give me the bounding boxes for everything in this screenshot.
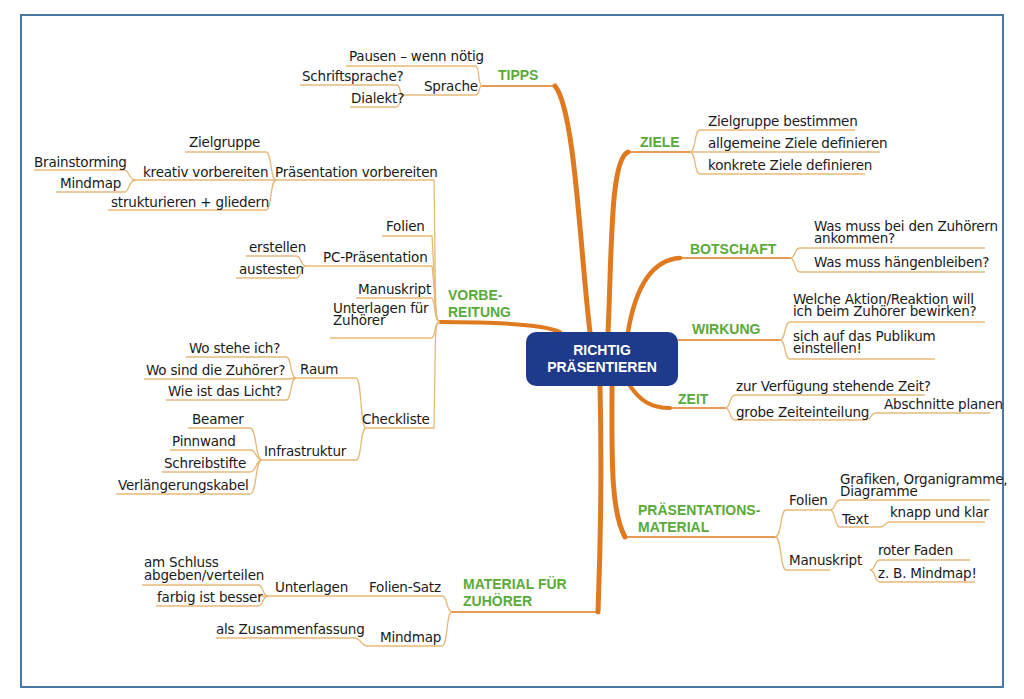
node-erstellen: erstellen xyxy=(249,240,306,254)
node-ziele-2: allgemeine Ziele definieren xyxy=(708,136,887,150)
node-unterlagen: Unterlagen xyxy=(275,580,348,594)
node-folien: Folien xyxy=(386,219,425,233)
node-wo-sind-zuhoerer: Wo sind die Zuhörer? xyxy=(146,363,285,377)
node-zeit-1: zur Verfügung stehende Zeit? xyxy=(736,379,931,393)
node-pinnwand: Pinnwand xyxy=(172,434,236,448)
branch-botschaft: BOTSCHAFT xyxy=(690,242,776,257)
node-farbig: farbig ist besser xyxy=(157,590,263,604)
node-roter-faden: roter Faden xyxy=(878,543,953,557)
node-text: Text xyxy=(842,512,869,526)
node-wirkung-2: sich auf das Publikum einstellen! xyxy=(793,330,936,354)
node-wirkung-1: Welche Aktion/Reaktion will ich beim Zuh… xyxy=(793,293,977,317)
node-verlaengerungskabel: Verlängerungskabel xyxy=(118,478,249,492)
hub-line1: RICHTIG xyxy=(526,342,678,359)
central-topic: RICHTIG PRÄSENTIEREN xyxy=(526,332,678,386)
branch-vorbereitung-line1: VORBE- xyxy=(448,288,502,303)
hub-line2: PRÄSENTIEREN xyxy=(526,359,678,376)
node-schriftsprache: Schriftsprache? xyxy=(302,69,404,83)
node-manuskript-material: Manuskript xyxy=(789,553,862,567)
node-zielgruppe: Zielgruppe xyxy=(189,135,260,149)
branch-material-zuhoerer-line1: MATERIAL FÜR xyxy=(463,577,567,592)
node-am-schluss: am Schluss abgeben/verteilen xyxy=(144,556,264,582)
node-beamer: Beamer xyxy=(192,412,244,426)
node-knapp-klar: knapp und klar xyxy=(890,505,989,519)
node-botschaft-2: Was muss hängenbleiben? xyxy=(814,255,989,269)
branch-praesentationsmaterial-line2: MATERIAL xyxy=(638,520,709,535)
node-praesentation-vorbereiten: Präsentation vorbereiten xyxy=(275,165,438,179)
node-manuskript: Manuskript xyxy=(358,282,431,296)
node-wo-stehe-ich: Wo stehe ich? xyxy=(189,341,280,355)
node-z-b-mindmap: z. B. Mindmap! xyxy=(878,566,977,580)
node-zeit-2: grobe Zeiteinteilung xyxy=(736,405,869,419)
branch-material-zuhoerer-line2: ZUHÖRER xyxy=(463,594,532,609)
node-checkliste: Checkliste xyxy=(362,412,430,426)
node-abschnitte: Abschnitte planen xyxy=(884,397,1003,411)
node-mindmap: Mindmap xyxy=(60,176,121,190)
branch-zeit: ZEIT xyxy=(678,392,708,407)
node-folien-satz: Folien-Satz xyxy=(369,580,441,594)
node-mindmap-zuhoerer: Mindmap xyxy=(380,630,441,644)
node-botschaft-1: Was muss bei den Zuhörern ankommen? xyxy=(814,220,998,244)
node-schreibstifte: Schreibstifte xyxy=(164,456,246,470)
node-strukturieren: strukturieren + gliedern xyxy=(111,195,269,209)
node-ziele-3: konkrete Ziele definieren xyxy=(708,158,872,172)
node-grafiken: Grafiken, Organigramme, Diagramme xyxy=(840,473,1007,497)
node-licht: Wie ist das Licht? xyxy=(168,384,282,398)
branch-vorbereitung-line2: REITUNG xyxy=(448,305,511,320)
node-dialekt: Dialekt? xyxy=(351,91,404,105)
node-kreativ-vorbereiten: kreativ vorbereiten xyxy=(143,165,268,179)
node-pausen: Pausen – wenn nötig xyxy=(349,49,484,63)
node-unterlagen-fuer-zuhoerer: Unterlagen für Zuhörer xyxy=(333,302,428,326)
node-brainstorming: Brainstorming xyxy=(34,155,127,169)
node-raum: Raum xyxy=(300,362,338,376)
branch-wirkung: WIRKUNG xyxy=(692,322,760,337)
node-ziele-1: Zielgruppe bestimmen xyxy=(708,114,858,128)
node-austesten: austesten xyxy=(239,262,304,276)
branch-tipps: TIPPS xyxy=(498,68,538,83)
node-folien-material: Folien xyxy=(789,493,828,507)
branch-praesentationsmaterial-line1: PRÄSENTATIONS- xyxy=(638,503,760,518)
node-zusammenfassung: als Zusammenfassung xyxy=(216,622,365,636)
node-infrastruktur: Infrastruktur xyxy=(264,444,346,458)
node-pc-praesentation: PC-Präsentation xyxy=(323,250,428,264)
node-sprache: Sprache xyxy=(424,79,478,93)
branch-ziele: ZIELE xyxy=(640,135,680,150)
